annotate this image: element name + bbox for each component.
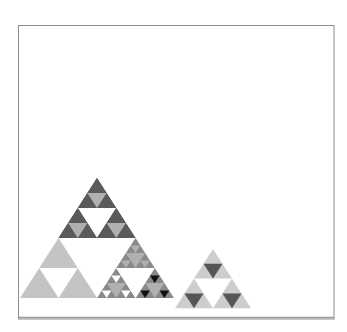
sierpinski-diagram [0, 0, 347, 332]
